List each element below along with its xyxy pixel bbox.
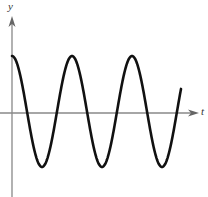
y-axis-label: y [8,1,13,12]
cosine-curve [12,56,181,167]
plot-area [0,0,208,197]
t-axis-label: t [201,106,204,117]
chart-canvas: y t [0,0,208,197]
